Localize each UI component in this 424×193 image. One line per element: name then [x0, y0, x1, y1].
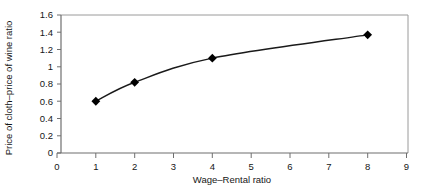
data-series-line [96, 35, 368, 101]
plot-area: 0 0.2 0.4 0.6 0.8 1 1.2 1.4 1.6 0 1 2 [0, 0, 424, 193]
data-point-marker [91, 97, 100, 106]
data-point-marker [363, 30, 372, 39]
x-tick-label: 4 [210, 161, 215, 172]
data-point-marker [130, 78, 139, 87]
chart-figure: Price of cloth–price of wine ratio Wage–… [0, 0, 424, 193]
x-tick-label: 8 [365, 161, 370, 172]
x-tick-label: 0 [54, 161, 59, 172]
y-axis-tick-labels: 0 0.2 0.4 0.6 0.8 1 1.2 1.4 1.6 [40, 9, 53, 158]
x-tick-label: 3 [171, 161, 176, 172]
y-tick-label: 1 [48, 61, 53, 72]
data-point-markers [91, 30, 372, 105]
x-tick-label: 5 [249, 161, 254, 172]
y-tick-label: 1.6 [40, 9, 53, 20]
x-tick-label: 2 [132, 161, 137, 172]
y-tick-label: 0.4 [40, 113, 53, 124]
plot-frame [57, 15, 408, 153]
x-tick-label: 7 [326, 161, 331, 172]
x-tick-label: 6 [287, 161, 292, 172]
x-tick-label: 9 [404, 161, 409, 172]
y-tick-label: 0.8 [40, 78, 53, 89]
x-tick-label: 1 [93, 161, 98, 172]
y-tick-label: 1.2 [40, 44, 53, 55]
y-tick-label: 1.4 [40, 27, 53, 38]
data-point-marker [208, 54, 217, 63]
x-axis-ticks [57, 153, 407, 158]
x-axis-tick-labels: 0 1 2 3 4 5 6 7 8 9 [54, 161, 409, 172]
y-tick-label: 0.6 [40, 96, 53, 107]
y-tick-label: 0 [48, 147, 53, 158]
y-tick-label: 0.2 [40, 130, 53, 141]
